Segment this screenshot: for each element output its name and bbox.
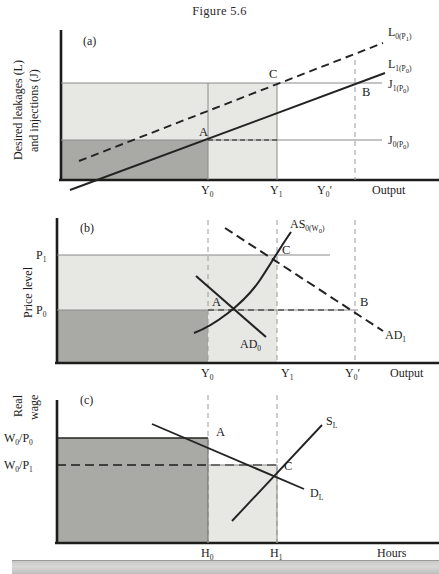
panel-b-point-B: B: [360, 295, 368, 309]
panel-c-tag: (c): [80, 393, 93, 407]
panel-c-x-axis-title: Hours: [377, 546, 407, 560]
panel-c-label-DL: DL: [310, 486, 324, 502]
panel-b-xtick-Y0prime: Y0′: [345, 366, 360, 382]
panel-a-xtick-Y0prime: Y0′: [317, 183, 332, 199]
panel-a-label-L1P0: L1(P0): [388, 57, 412, 74]
panel-c: SL DL A C (c) Real wage W0/P0 W0/P1 H0: [4, 393, 439, 562]
panel-b-xtick-Y0: Y0: [201, 366, 214, 382]
panel-b-point-A: A: [212, 295, 221, 309]
panel-c-label-SL: SL: [326, 414, 338, 430]
panel-b-ytick-P0: P0: [36, 303, 47, 319]
panel-a-point-B: B: [362, 85, 370, 99]
panel-a-xtick-Y0: Y0: [201, 183, 214, 199]
panel-b-x-axis-title: Output: [390, 366, 424, 380]
panel-a-xtick-Y1: Y1: [270, 183, 283, 199]
panel-b-label-AS0W0: AS0(W0): [290, 217, 325, 234]
panel-c-ytick-W0P1: W0/P1: [4, 458, 33, 474]
panel-a-label-J0P0: J0(P0): [388, 133, 409, 150]
panel-c-ytick-W0P0: W0/P0: [4, 431, 33, 447]
panel-b-label-AD1: AD1: [385, 328, 406, 344]
panel-b-ytick-P1: P1: [36, 248, 47, 264]
panel-b-y-axis-title: Price level: [21, 266, 35, 318]
panel-a-point-A: A: [199, 125, 208, 139]
panel-b-dark-shade: [57, 310, 208, 363]
panel-a-label-L0P1: L0(P1): [388, 25, 412, 42]
panel-a-point-C: C: [269, 67, 277, 81]
panel-a-x-axis-title: Output: [372, 183, 406, 197]
panel-c-y-axis-title-line1: Real: [11, 394, 25, 417]
panel-c-dark-shade: [57, 438, 208, 543]
page-footer-bar: [12, 560, 439, 574]
panel-b: AS0(W0) AD0 AD1 A B C (b) Price level P1…: [21, 217, 439, 382]
panel-c-point-C: C: [284, 459, 292, 473]
panel-a-tag: (a): [83, 34, 96, 48]
panel-b-tag: (b): [80, 221, 94, 235]
panel-b-point-C: C: [282, 243, 290, 257]
panel-b-xtick-Y1: Y1: [281, 366, 294, 382]
panel-a: L0(P1) L1(P0) J1(P0) J0(P0) A B C (a) De…: [11, 25, 439, 199]
panel-a-y-axis-title-line2: and injections (J): [27, 69, 41, 152]
panel-a-y-axis-title-line1: Desired leakages (L): [11, 60, 25, 160]
panel-c-y-axis-title-line2: wage: [27, 395, 41, 420]
panel-a-label-J1P0: J1(P0): [388, 77, 409, 94]
panel-c-light-shade: [208, 465, 277, 543]
panel-c-point-A: A: [216, 425, 225, 439]
